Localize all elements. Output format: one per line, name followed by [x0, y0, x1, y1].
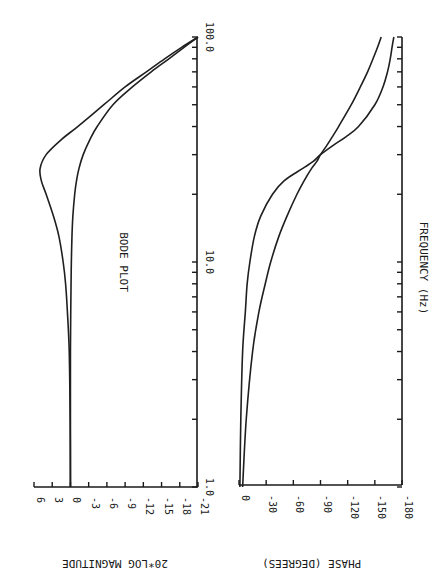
value-tick-label: -12 [144, 497, 155, 515]
value-tick-label: -150 [376, 495, 387, 519]
freq-tick-label-1: 1.0 [204, 478, 215, 496]
value-tick-label: -18 [181, 497, 192, 515]
bode-plot-figure: 630-3-6-9-12-15-18-21 0-30-60-90-120-150… [0, 0, 442, 575]
curve-series-2 [70, 37, 198, 487]
magnitude-axis-label: 20*LOG MAGNITUDE [62, 557, 168, 570]
value-tick-label: -30 [267, 495, 278, 513]
value-tick-label: -6 [108, 497, 119, 509]
phase-axis-label: PHASE (DEGREES) [262, 557, 361, 570]
value-tick-label: -120 [349, 495, 360, 519]
value-tick-label: -60 [294, 495, 305, 513]
value-tick-label: -90 [322, 495, 333, 513]
value-tick-label: 0 [71, 497, 82, 503]
value-tick-label: -15 [163, 497, 174, 515]
value-tick-label: 3 [53, 497, 64, 503]
value-tick-label: 6 [35, 497, 46, 503]
value-tick-label: -9 [126, 497, 137, 509]
value-tick-label: -21 [199, 497, 210, 515]
curve-series-2 [243, 37, 382, 487]
frequency-axis-label: FREQUENCY (Hz) [417, 222, 430, 315]
phase-panel: 0-30-60-90-120-150-180 [239, 37, 414, 519]
freq-tick-label-10: 10.0 [204, 250, 215, 274]
value-tick-label: -3 [90, 497, 101, 509]
curve-series-1 [240, 37, 394, 487]
value-tick-label: -180 [403, 495, 414, 519]
freq-tick-label-100: 100.0 [204, 22, 215, 52]
chart-title: BODE PLOT [117, 232, 130, 292]
value-tick-label: 0 [240, 495, 251, 501]
bode-plot-svg: 630-3-6-9-12-15-18-21 0-30-60-90-120-150… [0, 0, 442, 575]
